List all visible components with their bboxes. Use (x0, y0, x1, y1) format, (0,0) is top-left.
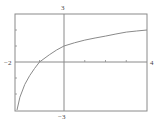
log-function-plot: −2 4 3 −3 (0, 0, 158, 122)
x-min-label: −2 (4, 59, 12, 67)
y-min-label: −3 (58, 113, 66, 121)
y-max-label: 3 (61, 4, 65, 12)
x-max-label: 4 (150, 59, 154, 67)
function-curve (17, 30, 147, 110)
